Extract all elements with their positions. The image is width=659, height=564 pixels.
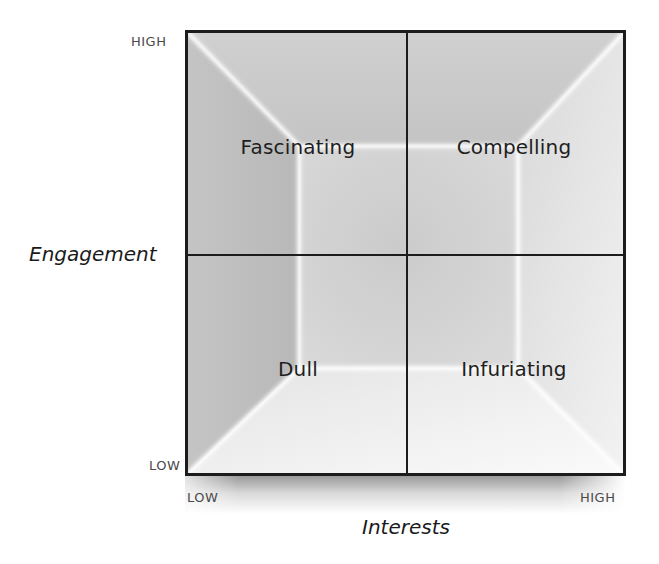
vertical-divider xyxy=(406,33,408,473)
x-axis-low-tick: LOW xyxy=(187,490,218,505)
quadrant-label-bottom-left: Dull xyxy=(278,357,318,381)
y-axis-high-tick: HIGH xyxy=(131,34,166,49)
quadrant-label-bottom-right: Infuriating xyxy=(461,357,566,381)
y-axis-title: Engagement xyxy=(29,242,157,266)
quadrant-label-top-left: Fascinating xyxy=(241,135,356,159)
horizontal-divider xyxy=(188,254,623,256)
quadrant-matrix: Fascinating Compelling Dull Infuriating xyxy=(185,30,626,476)
quadrant-label-top-right: Compelling xyxy=(457,135,572,159)
matrix-shadow xyxy=(185,476,626,514)
x-axis-title: Interests xyxy=(362,515,450,539)
x-axis-high-tick: HIGH xyxy=(580,490,615,505)
y-axis-low-tick: LOW xyxy=(149,458,180,473)
